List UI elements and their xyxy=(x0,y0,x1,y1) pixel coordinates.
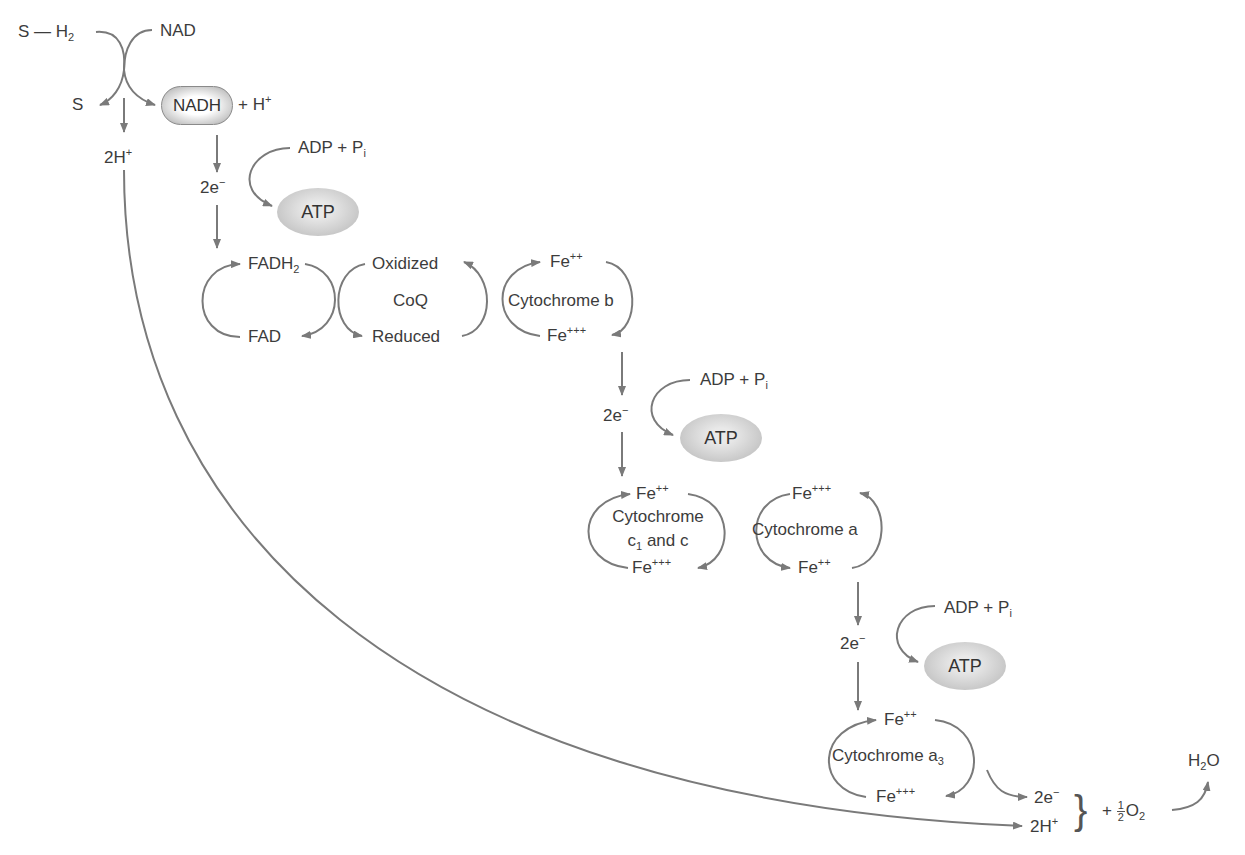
protons-label: 2H+ xyxy=(104,148,132,168)
electron-transport-diagram: S — H2 NAD S NADH + H+ 2H+ 2e− ADP + Pi … xyxy=(0,0,1245,855)
atp-ellipse-1: ATP xyxy=(277,188,359,236)
nadh-pill: NADH xyxy=(161,86,233,125)
final-protons-label: 2H+ xyxy=(1030,817,1058,837)
cyt-b-fe3-label: Fe+++ xyxy=(547,326,586,346)
adp-label-2: ADP + Pi xyxy=(700,370,768,390)
nadh-plus-h-label: + H+ xyxy=(238,95,271,115)
substrate-reduced-label: S — H2 xyxy=(18,22,74,42)
coq-reduced-label: Reduced xyxy=(372,327,440,347)
cyt-c-fe2-label: Fe++ xyxy=(636,484,669,504)
coq-oxidized-label: Oxidized xyxy=(372,254,438,274)
cyt-c-label-line2: c1 and c xyxy=(592,531,724,551)
brace: } xyxy=(1074,790,1087,830)
cyt-a-fe3-label: Fe+++ xyxy=(792,484,831,504)
arrows-layer xyxy=(0,0,1245,855)
cyt-a3-label: Cytochrome a3 xyxy=(832,746,944,766)
adp-label-1: ADP + Pi xyxy=(298,138,366,158)
final-reactant-label: + 12O2 xyxy=(1102,800,1145,823)
cyt-a3-fe3-label: Fe+++ xyxy=(876,787,915,807)
substrate-oxidized-label: S xyxy=(72,95,83,115)
cyt-c-fe3-label: Fe+++ xyxy=(632,558,671,578)
water-label: H2O xyxy=(1188,751,1220,771)
atp-ellipse-3: ATP xyxy=(924,642,1006,690)
cyt-a3-fe2-label: Fe++ xyxy=(884,710,917,730)
coq-label: CoQ xyxy=(393,291,428,311)
fad-label: FAD xyxy=(248,327,281,347)
electrons-label-3: 2e− xyxy=(840,634,865,654)
nad-label: NAD xyxy=(160,21,196,41)
fadh2-label: FADH2 xyxy=(248,254,299,274)
cyt-a-label: Cytochrome a xyxy=(752,520,858,540)
cyt-b-fe2-label: Fe++ xyxy=(550,252,583,272)
electrons-label-1: 2e− xyxy=(200,178,225,198)
electrons-label-2: 2e− xyxy=(603,406,628,426)
cyt-b-label: Cytochrome b xyxy=(508,291,614,311)
half-fraction: 12 xyxy=(1117,800,1125,823)
atp-ellipse-2: ATP xyxy=(680,414,762,462)
cyt-a-fe2-label: Fe++ xyxy=(798,558,831,578)
final-electrons-label: 2e− xyxy=(1034,788,1059,808)
adp-label-3: ADP + Pi xyxy=(944,598,1012,618)
cyt-c-label-line1: Cytochrome xyxy=(592,507,724,527)
